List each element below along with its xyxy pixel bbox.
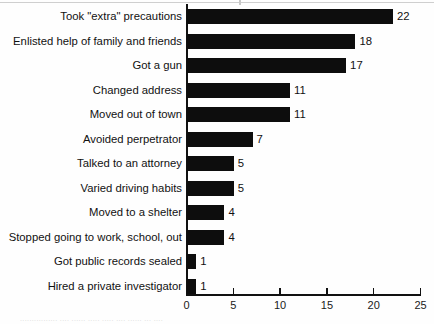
bar-value-label: 4 [228,230,234,245]
bar [187,107,290,122]
category-label: Got public records sealed [0,254,182,269]
bar-value-label: 11 [294,107,306,122]
bar [187,34,355,49]
bar [187,132,253,147]
bar-row: Changed address11 [0,83,434,98]
x-axis-tick-label: 10 [265,299,295,311]
bar-row: Talked to an attorney5 [0,156,434,171]
bar-value-label: 4 [228,205,234,220]
category-label: Got a gun [0,58,182,73]
bar-row: Hired a private investigator1 [0,279,434,294]
x-axis-line [186,294,421,296]
category-label: Moved to a shelter [0,205,182,220]
x-axis-tick-label: 20 [359,299,389,311]
bar-row: Got public records sealed1 [0,254,434,269]
bar-chart: 0510152025 Took "extra" precautions22Enl… [0,0,434,324]
category-label: Moved out of town [0,107,182,122]
plot-area: 0510152025 Took "extra" precautions22Enl… [0,0,434,324]
x-axis-tick-label: 15 [312,299,342,311]
category-label: Took "extra" precautions [0,9,182,24]
bar [187,83,290,98]
x-axis-tick-label: 0 [172,299,202,311]
bar-row: Moved to a shelter4 [0,205,434,220]
category-label: Talked to an attorney [0,156,182,171]
category-label: Hired a private investigator [0,279,182,294]
category-label: Stopped going to work, school, out [0,230,182,245]
bar-value-label: 5 [238,156,244,171]
x-axis-tick-label: 5 [218,299,248,311]
x-axis-tick-label: 25 [406,299,434,311]
bar-value-label: 18 [359,34,372,49]
bar [187,156,234,171]
bar [187,181,234,196]
bar [187,230,224,245]
bar-row: Stopped going to work, school, out4 [0,230,434,245]
bar-row: Varied driving habits5 [0,181,434,196]
bar-value-label: 11 [294,83,306,98]
bar-value-label: 5 [238,181,244,196]
bar [187,279,196,294]
bar-value-label: 22 [397,9,410,24]
category-label: Changed address [0,83,182,98]
bar-value-label: 7 [257,132,263,147]
bar [187,254,196,269]
category-label: Avoided perpetrator [0,132,182,147]
bar-row: Avoided perpetrator7 [0,132,434,147]
bar [187,205,224,220]
bar-row: Took "extra" precautions22 [0,9,434,24]
bar-value-label: 1 [200,279,206,294]
bar-row: Moved out of town11 [0,107,434,122]
bar-row: Got a gun17 [0,58,434,73]
bar [187,9,393,24]
category-label: Enlisted help of family and friends [0,34,182,49]
bar-value-label: 1 [200,254,206,269]
category-label: Varied driving habits [0,181,182,196]
bar-value-label: 17 [350,58,363,73]
bar-row: Enlisted help of family and friends18 [0,34,434,49]
bar [187,58,346,73]
footer-caption-ghost: ................ .... ...... ..... .....… [20,315,320,321]
